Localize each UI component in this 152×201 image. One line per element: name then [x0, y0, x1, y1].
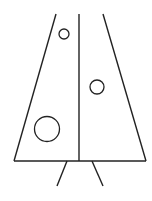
- trapezoid-right-side: [103, 14, 146, 161]
- right-leg: [92, 161, 103, 186]
- diagram-canvas: [0, 0, 152, 201]
- left-leg: [57, 161, 67, 186]
- small-circle: [59, 29, 69, 39]
- medium-circle: [90, 80, 104, 94]
- trapezoid-left-side: [14, 14, 56, 161]
- large-circle: [35, 117, 60, 142]
